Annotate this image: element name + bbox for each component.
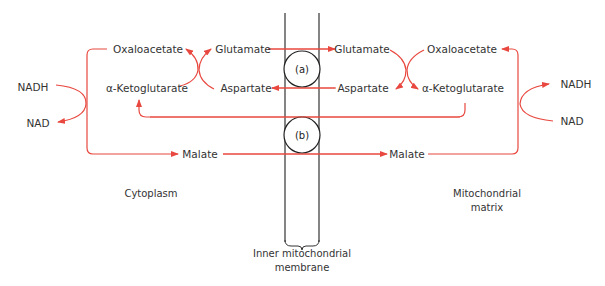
mitochondrial-matrix-label-line1: Mitochondrial xyxy=(453,188,521,199)
cyto-malate-label: Malate xyxy=(182,148,217,160)
transporter-b-label: (b) xyxy=(295,130,309,141)
matrix-alpha-ketoglutarate-label: α-Ketoglutarate xyxy=(422,82,504,94)
right-transamination-arrow-1 xyxy=(390,50,406,89)
cyto-oxaloacetate-label: Oxaloacetate xyxy=(113,43,183,55)
malate-to-oxaloacetate-arrow xyxy=(428,49,518,154)
cyto-glutamate-label: Glutamate xyxy=(215,43,271,55)
matrix-metabolites: Glutamate Oxaloacetate Aspartate α-Ketog… xyxy=(334,43,591,160)
nad-to-nadh-arrow-right xyxy=(520,84,553,121)
matrix-malate-label: Malate xyxy=(389,148,424,160)
cyto-nad-label: NAD xyxy=(26,117,49,129)
matrix-aspartate-label: Aspartate xyxy=(337,82,388,94)
matrix-glutamate-label: Glutamate xyxy=(334,43,390,55)
malate-aspartate-shuttle-diagram: (a) (b) Oxaloacetate Glutamate α-Ketoglu… xyxy=(0,0,605,286)
cytoplasm-label: Cytoplasm xyxy=(124,188,177,199)
oxaloacetate-to-malate-arrow xyxy=(87,49,178,154)
matrix-oxaloacetate-label: Oxaloacetate xyxy=(427,43,497,55)
left-transamination-arrow-2 xyxy=(199,49,214,89)
transporter-b: (b) xyxy=(284,117,320,153)
region-labels: Cytoplasm Mitochondrial matrix Inner mit… xyxy=(124,188,521,273)
cyto-aspartate-label: Aspartate xyxy=(220,82,271,94)
inner-membrane-label-line1: Inner mitochondrial xyxy=(253,248,351,259)
transporter-a-label: (a) xyxy=(295,64,309,75)
matrix-nad-label: NAD xyxy=(560,115,583,127)
nadh-to-nad-arrow-left xyxy=(56,85,86,122)
matrix-nadh-label: NADH xyxy=(560,78,591,90)
transporter-a: (a) xyxy=(284,51,320,87)
mitochondrial-matrix-label-line2: matrix xyxy=(471,202,504,213)
alpha-ketoglutarate-transport-arrow xyxy=(139,100,465,117)
cytoplasm-metabolites: Oxaloacetate Glutamate α-Ketoglutarate A… xyxy=(17,43,271,160)
cyto-nadh-label: NADH xyxy=(17,81,48,93)
cyto-alpha-ketoglutarate-label: α-Ketoglutarate xyxy=(106,82,188,94)
inner-membrane-label-line2: membrane xyxy=(275,262,330,273)
